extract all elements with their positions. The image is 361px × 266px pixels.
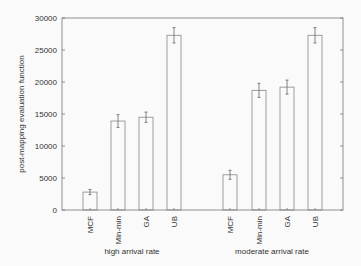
- x-tick-label: MCF: [86, 216, 95, 233]
- x-axis-labels: MCFMin-minGAUBhigh arrival rateMCFMin-mi…: [86, 215, 320, 256]
- plot-frame: [62, 18, 343, 210]
- y-tick-label: 30000: [35, 14, 58, 23]
- bar: [167, 35, 181, 210]
- x-tick-label: UB: [170, 216, 179, 227]
- bar: [139, 117, 153, 210]
- bar: [308, 35, 322, 210]
- bar: [111, 121, 125, 210]
- bar: [280, 87, 294, 210]
- y-tick-label: 10000: [35, 142, 58, 151]
- y-tick-label: 5000: [39, 174, 57, 183]
- y-tick-label: 0: [53, 206, 58, 215]
- y-axis-ticks: 050001000015000200002500030000: [35, 14, 343, 215]
- bar: [252, 90, 266, 210]
- x-tick-label: GA: [283, 215, 292, 227]
- bar: [223, 175, 237, 210]
- x-tick-label: GA: [142, 215, 151, 227]
- y-tick-label: 15000: [35, 110, 58, 119]
- x-tick-label: UB: [311, 216, 320, 227]
- bars: [83, 28, 322, 210]
- x-tick-label: Min-min: [255, 216, 264, 244]
- group-label: moderate arrival rate: [235, 247, 309, 256]
- bar-chart: 050001000015000200002500030000 MCFMin-mi…: [0, 0, 361, 266]
- y-tick-label: 20000: [35, 78, 58, 87]
- x-tick-label: MCF: [226, 216, 235, 233]
- group-label: high arrival rate: [104, 247, 160, 256]
- y-axis-title: post-mapping evaluation function: [17, 55, 26, 172]
- x-tick-label: Min-min: [114, 216, 123, 244]
- y-tick-label: 25000: [35, 46, 58, 55]
